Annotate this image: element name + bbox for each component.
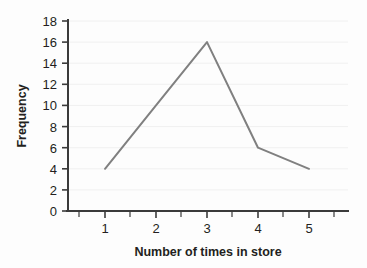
x-axis-tick-labels: 1 2 3 4 5 xyxy=(101,221,312,236)
y-axis-tick-labels: 18 16 14 12 10 8 6 4 2 0 xyxy=(43,14,57,219)
x-label-4: 4 xyxy=(254,221,261,236)
chart-canvas: 18 16 14 12 10 8 6 4 2 0 1 2 3 4 5 Numbe… xyxy=(0,0,367,268)
y-axis-title: Frequency xyxy=(15,84,29,147)
x-label-5: 5 xyxy=(305,221,312,236)
x-label-2: 2 xyxy=(152,221,159,236)
y-label-4: 4 xyxy=(50,162,57,177)
x-axis-title: Number of times in store xyxy=(134,245,281,259)
y-label-10: 10 xyxy=(43,98,57,113)
y-label-0: 0 xyxy=(50,204,57,219)
axes xyxy=(67,20,348,211)
x-axis-ticks xyxy=(79,211,334,218)
y-label-2: 2 xyxy=(50,183,57,198)
y-label-8: 8 xyxy=(50,120,57,135)
y-label-16: 16 xyxy=(43,35,57,50)
y-label-12: 12 xyxy=(43,77,57,92)
x-label-3: 3 xyxy=(203,221,210,236)
x-label-1: 1 xyxy=(101,221,108,236)
y-label-18: 18 xyxy=(43,14,57,29)
frequency-polygon-chart: 18 16 14 12 10 8 6 4 2 0 1 2 3 4 5 Numbe… xyxy=(0,0,367,268)
y-label-14: 14 xyxy=(43,56,57,71)
y-label-6: 6 xyxy=(50,141,57,156)
